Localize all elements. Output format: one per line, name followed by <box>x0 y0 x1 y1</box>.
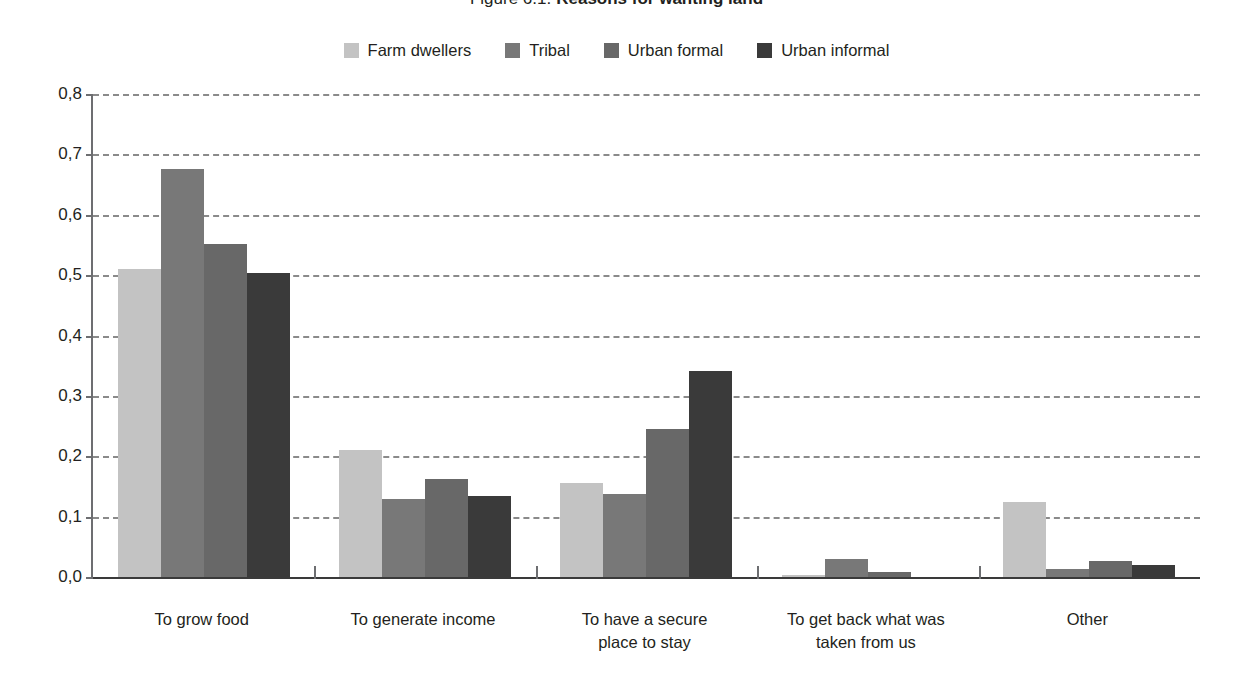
legend-item-farm-dwellers[interactable]: Farm dwellers <box>344 41 472 59</box>
bar[interactable] <box>247 273 290 577</box>
legend-item-tribal[interactable]: Tribal <box>505 41 570 59</box>
y-axis-tick-label: 0,5 <box>58 266 82 284</box>
y-axis-tick-label: 0,0 <box>58 568 82 586</box>
x-axis-category-label: To grow food <box>91 608 312 631</box>
bar[interactable] <box>868 572 911 577</box>
y-axis-tick <box>86 396 93 398</box>
x-axis-separator-tick <box>757 566 759 579</box>
legend-item-urban-formal[interactable]: Urban formal <box>604 41 723 59</box>
x-axis-category-label: To have a secureplace to stay <box>534 608 755 654</box>
bar[interactable] <box>118 269 161 577</box>
legend-label-urban-formal: Urban formal <box>628 41 723 59</box>
x-axis-separator-tick <box>314 566 316 579</box>
bar[interactable] <box>161 169 204 577</box>
bar[interactable] <box>204 244 247 577</box>
y-axis-tick <box>86 577 93 579</box>
y-axis-tick <box>86 94 93 96</box>
bar[interactable] <box>1132 565 1175 577</box>
bar[interactable] <box>603 494 646 577</box>
y-axis-tick-label: 0,7 <box>58 145 82 163</box>
legend-label-tribal: Tribal <box>529 41 570 59</box>
bar-group <box>536 94 757 577</box>
bar-group <box>979 94 1200 577</box>
legend-label-farm-dwellers: Farm dwellers <box>368 41 472 59</box>
bar[interactable] <box>468 496 511 578</box>
legend-item-urban-informal[interactable]: Urban informal <box>757 41 889 59</box>
x-axis-category-label: To get back what wastaken from us <box>755 608 976 654</box>
bar-group <box>93 94 314 577</box>
legend-label-urban-informal: Urban informal <box>781 41 889 59</box>
y-axis-tick <box>86 336 93 338</box>
x-axis-separator-tick <box>979 566 981 579</box>
bar[interactable] <box>560 483 603 577</box>
bar[interactable] <box>425 479 468 577</box>
figure-name: Reasons for wanting land <box>556 0 763 8</box>
plot-area <box>91 94 1200 579</box>
y-axis-tick-label: 0,4 <box>58 327 82 345</box>
bar[interactable] <box>825 559 868 577</box>
y-axis-tick-label: 0,8 <box>58 85 82 103</box>
chart-legend: Farm dwellers Tribal Urban formal Urban … <box>0 41 1233 59</box>
y-axis-tick <box>86 456 93 458</box>
legend-swatch-urban-formal <box>604 43 619 58</box>
legend-swatch-tribal <box>505 43 520 58</box>
x-axis-category-label: Other <box>977 608 1198 631</box>
y-axis-tick <box>86 275 93 277</box>
y-axis-tick <box>86 517 93 519</box>
bar[interactable] <box>1003 502 1046 577</box>
y-axis-tick-label: 0,2 <box>58 447 82 465</box>
page-title: Figure 6.1:Reasons for wanting land <box>0 0 1233 10</box>
bar[interactable] <box>339 450 382 577</box>
bar[interactable] <box>1046 569 1089 577</box>
legend-swatch-farm-dwellers <box>344 43 359 58</box>
x-axis-category-label: To generate income <box>312 608 533 631</box>
bar-group <box>757 94 978 577</box>
y-axis-tick-label: 0,1 <box>58 508 82 526</box>
y-axis-tick <box>86 215 93 217</box>
bar[interactable] <box>782 575 825 577</box>
y-axis-tick-label: 0,6 <box>58 206 82 224</box>
bar[interactable] <box>689 371 732 577</box>
y-axis-tick <box>86 154 93 156</box>
y-axis-tick-label: 0,3 <box>58 387 82 405</box>
bar[interactable] <box>646 429 689 577</box>
bar[interactable] <box>382 499 425 577</box>
bar[interactable] <box>1089 561 1132 577</box>
legend-swatch-urban-informal <box>757 43 772 58</box>
x-axis-separator-tick <box>536 566 538 579</box>
bar-group <box>314 94 535 577</box>
figure-number: Figure 6.1: <box>470 0 551 8</box>
